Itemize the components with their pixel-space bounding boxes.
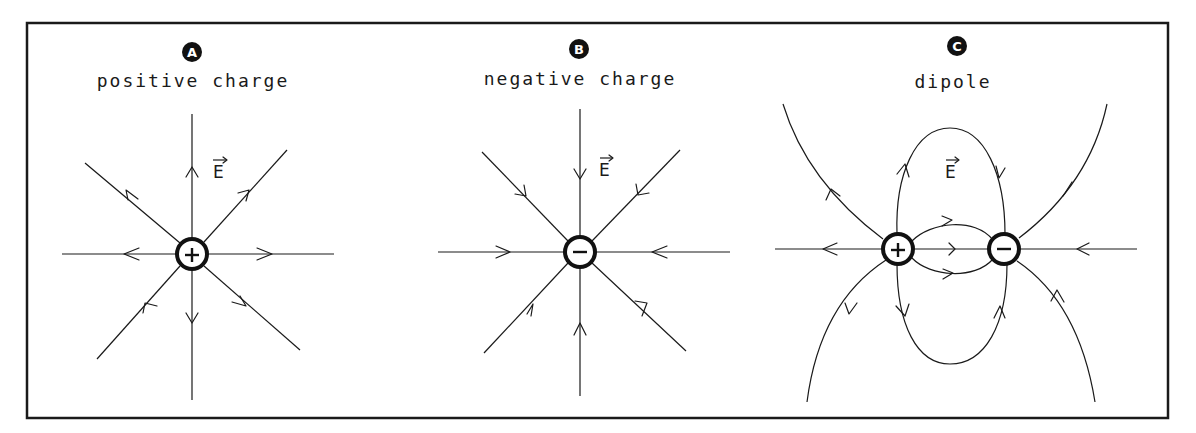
panel-a-title: positive charge [97, 70, 290, 91]
panel-b-badge: B [569, 39, 589, 59]
field-lines [775, 104, 1137, 402]
badge-label: A [187, 45, 197, 60]
panel-c-badge: C [947, 36, 967, 56]
field-vector-label: E [213, 157, 227, 182]
dipole-positive-charge [883, 234, 913, 264]
badge-label: C [952, 39, 962, 54]
panel-a: A positive charge E [62, 42, 334, 400]
diagram-canvas: A positive charge E [0, 0, 1196, 433]
panel-c-title: dipole [914, 71, 991, 92]
field-vector-label: E [599, 155, 613, 180]
panel-b: B negative charge E [438, 39, 730, 396]
e-vector-label: E [213, 162, 224, 182]
panel-b-title: negative charge [484, 68, 677, 89]
panel-a-badge: A [182, 42, 202, 62]
panel-c: C dipole [775, 36, 1137, 402]
field-arrowheads [823, 164, 1089, 318]
e-vector-label: E [599, 160, 610, 180]
electric-field-diagram: A positive charge E [0, 0, 1196, 433]
badge-label: B [574, 42, 584, 57]
field-vector-label: E [945, 157, 959, 182]
dipole-negative-charge [989, 234, 1019, 264]
e-vector-label: E [945, 162, 956, 182]
positive-charge [177, 239, 207, 269]
negative-charge [565, 237, 595, 267]
